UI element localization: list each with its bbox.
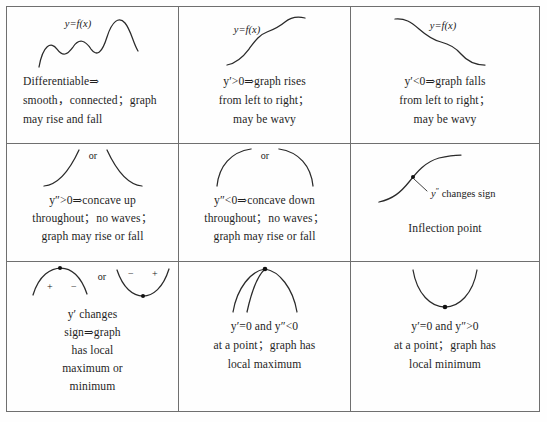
cell-first-derivative-negative: y=f(x) y′<0⇒graph falls from left to rig… [351,7,539,144]
caption-line: throughout；no waves； [185,210,344,228]
page-root: y=f(x) Differentiable⇒ smooth，connected；… [0,0,547,422]
caption-line: may be wavy [357,111,533,130]
caption-line: at a point；graph has [185,337,344,356]
caption-line: sign⇒graph [13,324,172,342]
sign-plus-left: + [47,281,53,292]
figure-rising-wavy-curve: y=f(x) [179,7,350,73]
caption-differentiable: Differentiable⇒ smooth，connected；graph m… [7,73,178,129]
caption-line: y′<0⇒graph falls [357,73,533,92]
caption-line: y″>0⇒concave up [13,192,172,210]
figure-local-minimum-parabola [351,262,539,318]
cell-inflection-point: y″ changes sign Inflection point [351,144,539,262]
cell-local-maximum: y′=0 and y″<0 at a point；graph has local… [179,262,351,411]
caption-local-maximum: y′=0 and y″<0 at a point；graph has local… [179,318,350,374]
caption-line: throughout；no waves； [13,210,172,228]
caption-line: maximum or [13,360,172,378]
caption-line: y′>0⇒graph rises [185,73,344,92]
caption-line: Differentiable⇒ [23,73,172,92]
caption-first-derivative-positive: y′>0⇒graph rises from left to right； may… [179,73,350,129]
derivative-summary-table: y=f(x) Differentiable⇒ smooth，connected；… [6,6,540,412]
sign-plus-right: + [152,268,158,279]
caption-line: y′=0 and y″<0 [185,318,344,337]
figure-sign-change-arcs: + − or − + [7,262,178,306]
sign-minus-left: − [71,281,77,292]
caption-line: y′ changes [13,306,172,324]
figure-falling-wavy-curve: y=f(x) [351,7,539,73]
cell-local-minimum: y′=0 and y″>0 at a point；graph has local… [351,262,539,411]
cell-second-derivative-negative: or y″<0⇒concave down throughout；no waves… [179,144,351,262]
caption-local-minimum: y′=0 and y″>0 at a point；graph has local… [351,318,539,374]
figure-label: y=f(x) [233,24,261,36]
figure-label: y=f(x) [64,18,92,30]
caption-line: graph may rise or fall [185,228,344,246]
figure-label: or [89,150,98,161]
caption-line: y′=0 and y″>0 [357,318,533,337]
figure-label: or [261,150,270,161]
caption-line: at a point；graph has [357,337,533,356]
cell-differentiable: y=f(x) Differentiable⇒ smooth，connected；… [7,7,179,144]
figure-local-maximum-arcs [179,262,350,318]
caption-line: from left to right； [357,92,533,111]
cell-first-derivative-sign-change: + − or − + y′ changes sign⇒graph has loc… [7,262,179,411]
caption-line: y″<0⇒concave down [185,192,344,210]
caption-first-derivative-negative: y′<0⇒graph falls from left to right； may… [351,73,539,129]
cell-first-derivative-positive: y=f(x) y′>0⇒graph rises from left to rig… [179,7,351,144]
figure-concave-up-arcs: or [7,144,178,192]
caption-second-derivative-positive: y″>0⇒concave up throughout；no waves； gra… [7,192,178,246]
caption-line: may rise and fall [23,111,172,130]
figure-label: y″ changes sign [430,187,496,199]
figure-label: y=f(x) [429,20,457,32]
caption-line: smooth，connected；graph [23,92,172,111]
cell-second-derivative-positive: or y″>0⇒concave up throughout；no waves； … [7,144,179,262]
caption-line: has local [13,342,172,360]
caption-inflection-point: Inflection point [351,220,539,239]
caption-line: minimum [13,378,172,396]
caption-line: may be wavy [185,111,344,130]
figure-wavy-rising-curve: y=f(x) [7,7,178,73]
caption-second-derivative-negative: y″<0⇒concave down throughout；no waves； g… [179,192,350,246]
caption-line: local maximum [185,356,344,375]
figure-concave-down-arcs: or [179,144,350,192]
caption-line: Inflection point [357,220,533,239]
caption-line: graph may rise or fall [13,228,172,246]
figure-inflection-s-curve: y″ changes sign [351,144,539,220]
sign-minus-right: − [128,268,134,279]
caption-first-derivative-sign-change: y′ changes sign⇒graph has local maximum … [7,306,178,396]
caption-line: from left to right； [185,92,344,111]
figure-label: or [98,271,107,282]
caption-line: local minimum [357,356,533,375]
